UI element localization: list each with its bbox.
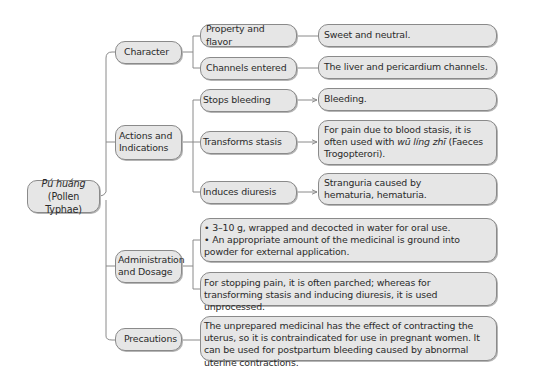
item-label: Property and flavor bbox=[206, 23, 291, 47]
value-administration-bullets: • 3–10 g, wrapped and decocted in water … bbox=[200, 218, 497, 262]
item-value-italic: wū líng zhī bbox=[397, 136, 446, 147]
branch-label: Character bbox=[124, 46, 169, 58]
item-induces-diuresis: Induces diuresis bbox=[200, 181, 297, 204]
value-administration-processing: For stopping pain, it is often parched; … bbox=[200, 272, 497, 306]
item-value: Bleeding. bbox=[324, 93, 367, 105]
item-value: For stopping pain, it is often parched; … bbox=[204, 277, 491, 314]
root-title-pinyin: Pú huáng bbox=[42, 177, 86, 190]
branch-precautions: Precautions bbox=[115, 328, 182, 351]
root-title-latin: (Pollen Typhae) bbox=[33, 190, 94, 216]
bullet-item: • An appropriate amount of the medicinal… bbox=[204, 234, 491, 258]
branch-label-line2: Indications bbox=[119, 142, 168, 154]
item-stops-bleeding: Stops bleeding bbox=[200, 89, 297, 112]
branch-label: Precautions bbox=[124, 333, 177, 345]
branch-administration-dosage: Administration and Dosage bbox=[115, 250, 182, 283]
item-value: Sweet and neutral. bbox=[324, 29, 410, 41]
bullet-item: • 3–10 g, wrapped and decocted in water … bbox=[204, 222, 450, 234]
item-value: The unprepared medicinal has the effect … bbox=[204, 320, 491, 369]
value-property-flavor: Sweet and neutral. bbox=[318, 24, 497, 47]
value-stops-bleeding: Bleeding. bbox=[318, 88, 497, 111]
branch-actions-indications: Actions and Indications bbox=[115, 125, 182, 160]
branch-label-line2: and Dosage bbox=[118, 266, 172, 278]
branch-label-line1: Actions and bbox=[119, 130, 172, 142]
value-transforms-stasis: For pain due to blood stasis, it is ofte… bbox=[318, 120, 497, 165]
item-label: Transforms stasis bbox=[203, 136, 282, 148]
branch-label-line1: Administration bbox=[118, 254, 185, 266]
value-induces-diuresis: Stranguria caused by hematuria, hematuri… bbox=[318, 173, 497, 205]
item-channels-entered: Channels entered bbox=[200, 57, 297, 80]
value-precautions: The unprepared medicinal has the effect … bbox=[200, 316, 497, 361]
item-label: Channels entered bbox=[206, 62, 286, 74]
branch-character: Character bbox=[115, 41, 182, 64]
item-label: Stops bleeding bbox=[203, 94, 271, 106]
item-value: The liver and pericardium channels. bbox=[324, 61, 487, 73]
item-property-flavor: Property and flavor bbox=[200, 24, 297, 47]
value-channels-entered: The liver and pericardium channels. bbox=[318, 56, 497, 79]
item-value: Stranguria caused by hematuria, hematuri… bbox=[324, 177, 466, 201]
item-transforms-stasis: Transforms stasis bbox=[200, 131, 297, 154]
root-node: Pú huáng (Pollen Typhae) bbox=[27, 180, 100, 213]
item-label: Induces diuresis bbox=[203, 186, 276, 198]
